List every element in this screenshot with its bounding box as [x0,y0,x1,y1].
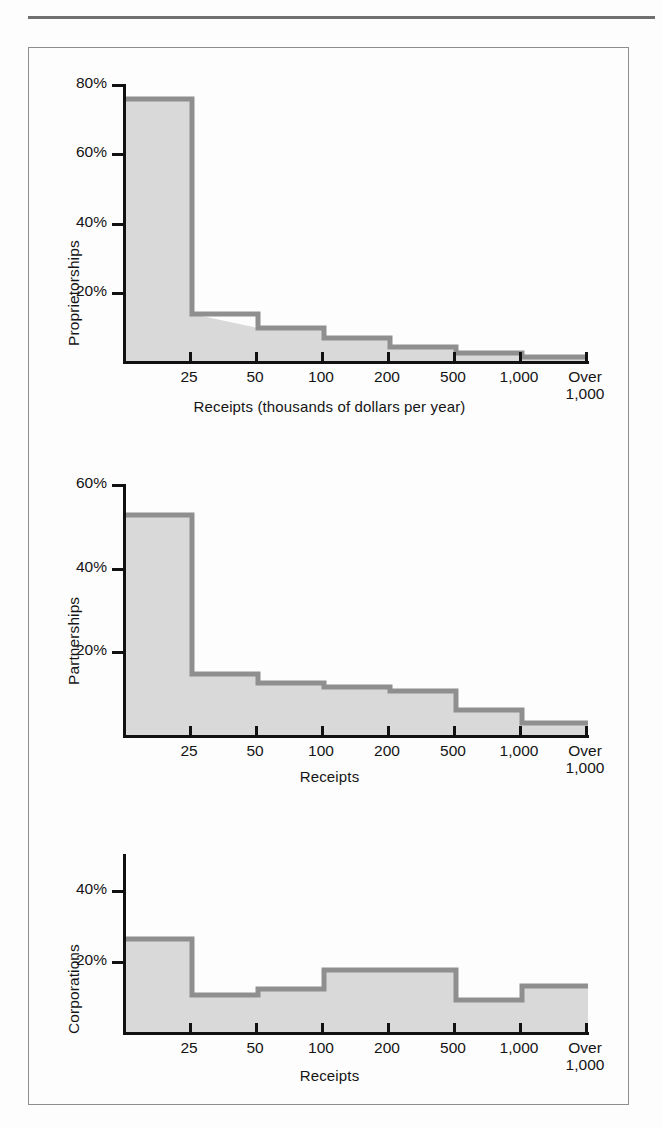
y-tick-20 [112,961,123,964]
x-tick-100 [321,352,324,362]
step-area-proprietorships [123,84,589,364]
x-tick-25 [189,352,192,362]
x-tick-label-25: 25 [159,742,219,760]
x-tick-label-200: 200 [357,742,417,760]
y-tick-40 [112,223,123,226]
x-tick-label-500: 500 [423,368,483,386]
y-tick-label-60: 60% [57,474,107,492]
x-tick-500 [453,726,456,736]
x-tick-label-200: 200 [357,368,417,386]
top-horizontal-rule [28,16,655,19]
x-tick-over-1000 [585,726,588,736]
x-tick-200 [387,1023,390,1033]
step-area-partnerships [123,484,589,738]
x-tick-500 [453,352,456,362]
y-tick-60 [112,484,123,487]
chart-proprietorships: Proprietorships 80% 60% 40% 20% [29,48,630,448]
y-tick-label-40: 40% [57,213,107,231]
y-tick-label-80: 80% [57,74,107,92]
x-tick-50 [255,726,258,736]
x-tick-label-1000: 1,000 [489,1039,549,1057]
x-tick-50 [255,352,258,362]
chart-partnerships: Partnerships 60% 40% 20% [29,400,630,770]
y-tick-80 [112,84,123,87]
x-tick-label-50: 50 [225,368,285,386]
y-tick-label-20: 20% [57,282,107,300]
x-tick-200 [387,352,390,362]
x-tick-label-500: 500 [423,742,483,760]
x-tick-label-50: 50 [225,742,285,760]
x-tick-50 [255,1023,258,1033]
chart-corporations: Corporations 40% 20% [29,772,630,1106]
x-axis-caption-corporations: Receipts [29,1067,630,1084]
figure-page: Proprietorships 80% 60% 40% 20% [0,0,663,1128]
x-tick-100 [321,726,324,736]
x-tick-label-1000: 1,000 [489,368,549,386]
x-tick-500 [453,1023,456,1033]
x-tick-label-1000: 1,000 [489,742,549,760]
x-tick-label-500: 500 [423,1039,483,1057]
y-tick-60 [112,153,123,156]
y-tick-20 [112,651,123,654]
y-tick-label-40: 40% [57,558,107,576]
y-tick-label-20: 20% [57,951,107,969]
x-tick-over-1000 [585,352,588,362]
x-tick-label-50: 50 [225,1039,285,1057]
x-tick-1000 [519,352,522,362]
y-tick-40 [112,890,123,893]
x-tick-label-25: 25 [159,368,219,386]
x-tick-label-100: 100 [291,1039,351,1057]
plot-area-proprietorships: 80% 60% 40% 20% [123,84,587,361]
plot-area-corporations: 40% 20% 25 50 100 200 500 1, [123,854,587,1032]
y-tick-label-20: 20% [57,641,107,659]
step-area-corporations [123,854,589,1035]
x-tick-25 [189,726,192,736]
y-tick-40 [112,568,123,571]
y-tick-label-60: 60% [57,143,107,161]
x-tick-label-200: 200 [357,1039,417,1057]
y-tick-20 [112,292,123,295]
figure-frame: Proprietorships 80% 60% 40% 20% [28,47,629,1105]
x-tick-1000 [519,726,522,736]
x-tick-label-100: 100 [291,742,351,760]
plot-area-partnerships: 60% 40% 20% 25 50 100 200 [123,484,587,735]
x-tick-over-1000 [585,1023,588,1033]
y-tick-label-40: 40% [57,880,107,898]
x-tick-1000 [519,1023,522,1033]
x-tick-label-25: 25 [159,1039,219,1057]
x-tick-label-100: 100 [291,368,351,386]
x-tick-200 [387,726,390,736]
x-tick-100 [321,1023,324,1033]
x-tick-25 [189,1023,192,1033]
